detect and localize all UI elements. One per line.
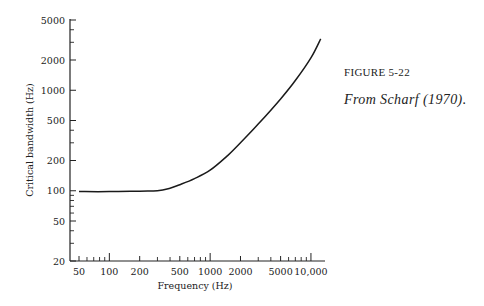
figure-label: FIGURE 5-22 — [344, 66, 410, 78]
axes — [70, 19, 325, 261]
x-tick-label: 200 — [131, 266, 149, 277]
y-tick-label: 500 — [47, 115, 65, 126]
x-axis-title: Frequency (Hz) — [157, 280, 232, 291]
y-tick-label: 20 — [53, 256, 65, 267]
x-tick-label: 100 — [100, 266, 118, 277]
x-tick-label: 50 — [73, 266, 85, 277]
x-tick-label: 1000 — [198, 266, 222, 277]
x-tick-label: 500 — [171, 266, 189, 277]
y-tick-label: 1000 — [41, 85, 65, 96]
x-tick-labels: 5010020050010002000500010,000 — [73, 266, 328, 277]
y-tick-label: 100 — [47, 185, 65, 196]
tick-marks — [70, 20, 311, 261]
y-tick-labels: 2050100200500100020005000 — [41, 15, 65, 267]
y-tick-label: 200 — [47, 155, 65, 166]
y-tick-label: 2000 — [41, 55, 65, 66]
y-tick-label: 50 — [53, 216, 65, 227]
x-tick-label: 2000 — [228, 266, 252, 277]
figure-source: From Scharf (1970). — [344, 92, 467, 108]
y-axis-title: Critical bandwidth (Hz) — [24, 83, 35, 197]
x-tick-label: 10,000 — [294, 266, 327, 277]
critical-bandwidth-chart: 5010020050010002000500010,000 2050100200… — [0, 0, 484, 306]
bandwidth-curve — [79, 39, 321, 192]
y-tick-label: 5000 — [41, 15, 65, 26]
x-tick-label: 5000 — [269, 266, 293, 277]
